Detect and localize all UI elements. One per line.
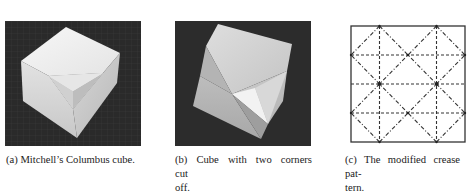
caption-b: (b) Cube with two corners cut off. <box>175 153 312 194</box>
caption-b-line-2: off. <box>175 181 312 194</box>
cut-cube-illustration <box>175 21 311 146</box>
caption-c-line-2: tern. <box>345 181 460 194</box>
cube-illustration <box>5 21 141 146</box>
cube-two-corners-cut-photo <box>175 21 311 146</box>
caption-a: (a) Mitchell’s Columbus cube. <box>6 153 146 167</box>
caption-b-line-1: (b) Cube with two corners cut <box>175 153 312 181</box>
columbus-cube-photo <box>5 21 141 146</box>
caption-c: (c) The modified crease pat- tern. <box>345 153 460 194</box>
crease-pattern-diagram <box>349 24 467 144</box>
caption-c-line-1: (c) The modified crease pat- <box>345 153 460 181</box>
crease-pattern-svg <box>349 24 467 144</box>
